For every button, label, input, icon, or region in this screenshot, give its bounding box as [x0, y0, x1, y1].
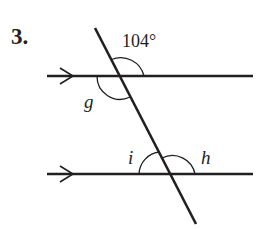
problem-number: 3. [11, 24, 28, 49]
angle-label-i: i [128, 147, 133, 168]
transversal-line [95, 28, 196, 224]
angle-arc-i [139, 152, 159, 174]
given-angle-label: 104° [122, 31, 156, 51]
parallel-lines-diagram: 3. 104° g i h [0, 0, 280, 229]
angle-arc-h [162, 155, 195, 174]
angle-label-g: g [84, 91, 94, 112]
angle-label-h: h [201, 147, 211, 168]
